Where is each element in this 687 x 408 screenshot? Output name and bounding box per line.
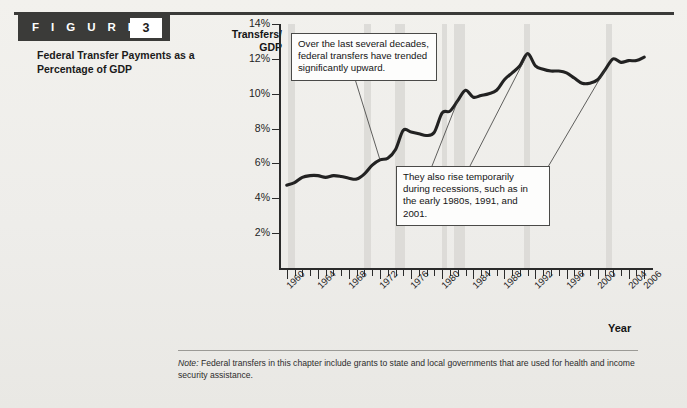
note-divider (178, 350, 638, 351)
callout-leader-line (355, 79, 380, 160)
note-prefix: Note: (178, 358, 199, 368)
note-text: Federal transfers in this chapter includ… (178, 358, 635, 380)
callout-recessions: They also rise temporarily during recess… (396, 166, 550, 226)
callout-leader-line (470, 54, 528, 166)
figure-note: Note: Federal transfers in this chapter … (178, 357, 638, 381)
callout-trend: Over the last several decades, federal t… (291, 33, 437, 81)
x-axis-title: Year (608, 322, 631, 334)
callout-leader-line (545, 69, 605, 172)
figure-page: F I G U R E 3 Federal Transfer Payments … (0, 0, 687, 408)
